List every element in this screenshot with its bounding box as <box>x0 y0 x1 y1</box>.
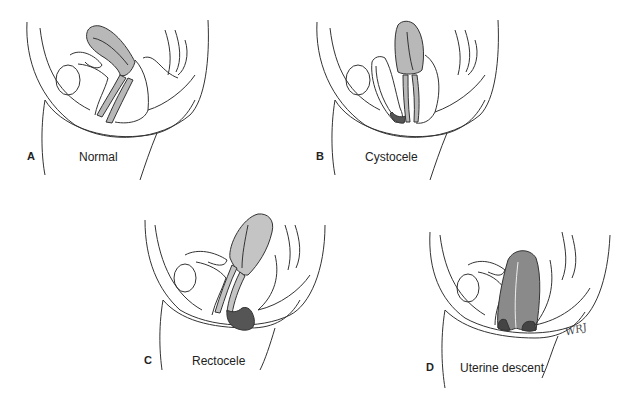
panel-b-cystocele: B Cystocele <box>300 0 520 200</box>
panel-letter: D <box>426 361 434 373</box>
panel-c-rectocele: C Rectocele <box>130 210 350 408</box>
panel-letter: A <box>27 150 35 162</box>
pelvis-illustration-rectocele <box>130 210 350 408</box>
pelvis-illustration-normal <box>0 0 220 200</box>
panel-caption: Normal <box>79 150 118 164</box>
pelvis-illustration-uterine-descent <box>410 220 629 408</box>
panel-caption: Rectocele <box>192 354 245 368</box>
panel-d-uterine-descent: D Uterine descent WRJ <box>410 220 629 408</box>
pelvis-illustration-cystocele <box>300 0 520 200</box>
panel-letter: C <box>144 354 152 366</box>
panel-caption: Uterine descent <box>460 361 544 375</box>
panel-caption: Cystocele <box>365 150 418 164</box>
panel-letter: B <box>316 150 324 162</box>
panel-a-normal: A Normal <box>0 0 220 200</box>
